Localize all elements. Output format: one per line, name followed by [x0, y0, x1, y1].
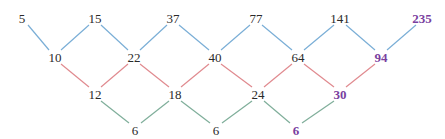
first-difference-4: 64 — [292, 51, 305, 64]
connector-line — [264, 101, 290, 123]
connector-line — [221, 64, 252, 87]
third-difference-2: 6 — [213, 124, 220, 137]
connector-line — [304, 64, 334, 87]
connector-line — [61, 64, 89, 87]
second-difference-1: 12 — [89, 88, 102, 101]
second-difference-3: 24 — [252, 88, 265, 101]
connector-line — [61, 25, 89, 50]
connector-line — [101, 25, 128, 50]
sequence-value-4: 77 — [250, 12, 263, 25]
connector-line — [387, 25, 416, 50]
connector-line — [179, 25, 209, 50]
connector-line — [101, 64, 128, 87]
connector-line — [262, 25, 292, 50]
connector-line — [304, 25, 334, 50]
connector-line — [140, 25, 167, 50]
first-difference-2: 22 — [128, 51, 141, 64]
connector-line — [222, 101, 252, 123]
third-difference-1: 6 — [132, 124, 139, 137]
sequence-value-6: 235 — [412, 12, 432, 25]
connector-lines — [0, 0, 445, 139]
second-difference-2: 18 — [169, 88, 182, 101]
first-difference-1: 10 — [49, 51, 62, 64]
connector-line — [181, 64, 209, 87]
third-difference-3: 6 — [293, 124, 300, 137]
connector-line — [101, 101, 129, 123]
connector-line — [264, 64, 292, 87]
connector-line — [346, 64, 375, 87]
first-difference-5: 94 — [375, 51, 388, 64]
second-difference-4: 30 — [334, 88, 347, 101]
connector-line — [221, 25, 250, 50]
sequence-value-1: 5 — [19, 12, 26, 25]
connector-line — [302, 101, 334, 123]
sequence-value-3: 37 — [167, 12, 180, 25]
sequence-value-5: 141 — [330, 12, 350, 25]
connector-line — [28, 25, 49, 50]
difference-table-diagram: 5 15 37 77 141 235 10 22 40 64 94 12 18 … — [0, 0, 445, 139]
connector-line — [141, 101, 169, 123]
sequence-value-2: 15 — [89, 12, 102, 25]
first-difference-3: 40 — [209, 51, 222, 64]
connector-line — [346, 25, 375, 50]
connector-line — [140, 64, 169, 87]
connector-line — [181, 101, 210, 123]
